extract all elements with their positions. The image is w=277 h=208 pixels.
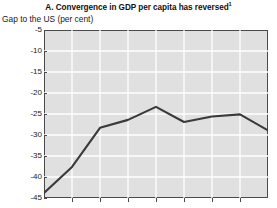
y-axis-tick-mark bbox=[44, 114, 47, 115]
chart-panel: A. Convergence in GDP per capita has rev… bbox=[0, 0, 277, 208]
y-axis-tick-mark bbox=[44, 177, 47, 178]
y-axis-tick-label: -25 bbox=[2, 110, 42, 118]
y-axis-tick-mark bbox=[44, 93, 47, 94]
x-axis-tick-mark bbox=[128, 198, 129, 202]
y-axis-tick-label: -15 bbox=[2, 68, 42, 76]
x-axis-tick-mark bbox=[240, 198, 241, 202]
y-axis-tick-mark bbox=[44, 51, 47, 52]
plot-wrapper bbox=[44, 30, 268, 198]
plot-svg bbox=[44, 30, 268, 198]
x-axis-tick-mark bbox=[72, 198, 73, 202]
y-axis-tick-label: -40 bbox=[2, 173, 42, 181]
y-axis-tick-mark bbox=[44, 198, 47, 199]
chart-title-footnote-marker: 1 bbox=[229, 1, 232, 7]
y-axis-tick-label: -30 bbox=[2, 131, 42, 139]
x-axis-tick-mark bbox=[156, 198, 157, 202]
y-axis-tick-label: -20 bbox=[2, 89, 42, 97]
x-axis-tick-mark bbox=[184, 198, 185, 202]
y-axis-tick-mark bbox=[44, 135, 47, 136]
y-axis-tick-label: -5 bbox=[2, 26, 42, 34]
chart-title-text: A. Convergence in GDP per capita has rev… bbox=[45, 3, 228, 12]
x-axis-tick-mark bbox=[212, 198, 213, 202]
x-axis-tick-mark bbox=[100, 198, 101, 202]
y-axis-tick-mark bbox=[44, 72, 47, 73]
y-axis-tick-label: -10 bbox=[2, 47, 42, 55]
y-axis-tick-mark bbox=[44, 156, 47, 157]
y-axis-tick-label: -45 bbox=[2, 194, 42, 202]
y-axis-tick-label: -35 bbox=[2, 152, 42, 160]
y-axis-tick-labels: -5-10-15-20-25-30-35-40-45 bbox=[0, 0, 42, 208]
